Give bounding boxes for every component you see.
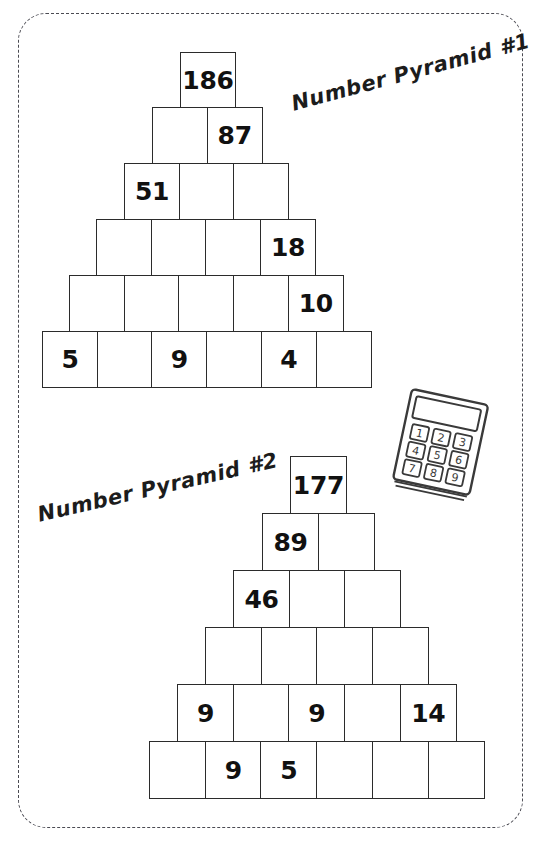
calculator-key-1: 1 [415, 426, 425, 440]
calculator-key-5: 5 [432, 449, 442, 463]
calculator-key-7: 7 [407, 462, 417, 476]
pyramid-2-cell-r6c6[interactable] [428, 741, 485, 799]
pyramid-2-row-5: 9 9 14 [177, 684, 457, 742]
pyramid-2-cell-r6c2[interactable]: 9 [205, 741, 262, 799]
pyramid-2-cell-r6c4[interactable] [316, 741, 373, 799]
pyramid-1-cell-r3c2[interactable] [179, 163, 235, 220]
pyramid-1-cell-r6c2[interactable] [97, 331, 153, 388]
pyramid-2-cell-r3c3[interactable] [344, 570, 401, 628]
pyramid-2-cell-r5c5[interactable]: 14 [400, 684, 457, 742]
pyramid-2-cell-r2c1[interactable]: 89 [262, 513, 319, 571]
pyramid-1-cell-r4c1[interactable] [96, 219, 152, 276]
pyramid-1-cell-r6c1[interactable]: 5 [42, 331, 98, 388]
pyramid-1-cell-r3c1[interactable]: 51 [124, 163, 180, 220]
pyramid-2-cell-r6c1[interactable] [149, 741, 206, 799]
pyramid-1-cell-r5c1[interactable] [69, 275, 125, 332]
pyramid-2-cell-r5c4[interactable] [344, 684, 401, 742]
pyramid-1-cell-r5c4[interactable] [233, 275, 289, 332]
pyramid-1-row-6: 5 9 4 [42, 331, 372, 388]
pyramid-2-row-2: 89 [262, 513, 375, 571]
pyramid-2-cell-r5c2[interactable] [233, 684, 290, 742]
calculator-key-2: 2 [436, 431, 446, 445]
pyramid-2-row-1: 177 [290, 456, 347, 514]
pyramid-1-cell-r6c5[interactable]: 4 [261, 331, 317, 388]
pyramid-1-cell-r4c3[interactable] [205, 219, 261, 276]
calculator-key-3: 3 [458, 436, 468, 450]
pyramid-2-cell-r2c2[interactable] [318, 513, 375, 571]
pyramid-1-cell-r6c6[interactable] [316, 331, 372, 388]
pyramid-2-cell-r6c5[interactable] [372, 741, 429, 799]
pyramid-2-row-6: 9 5 [149, 741, 485, 799]
pyramid-2-cell-r1c1[interactable]: 177 [290, 456, 347, 514]
pyramid-2-cell-r4c4[interactable] [372, 627, 429, 685]
pyramid-2-cell-r5c3[interactable]: 9 [288, 684, 345, 742]
pyramid-1-row-1: 186 [180, 52, 236, 109]
calculator-key-8: 8 [429, 466, 439, 480]
pyramid-1-cell-r5c3[interactable] [178, 275, 234, 332]
pyramid-2-cell-r4c1[interactable] [205, 627, 262, 685]
pyramid-1-row-4: 18 [96, 219, 316, 276]
pyramid-1-row-5: 10 [69, 275, 344, 332]
pyramid-2-cell-r6c3[interactable]: 5 [260, 741, 317, 799]
pyramid-1-cell-r2c1[interactable] [152, 107, 208, 164]
pyramid-2-row-4 [205, 627, 429, 685]
pyramid-1-cell-r3c3[interactable] [233, 163, 289, 220]
pyramid-2-row-3: 46 [233, 570, 401, 628]
pyramid-1-cell-r4c2[interactable] [151, 219, 207, 276]
pyramid-1-row-3: 51 [124, 163, 289, 220]
pyramid-1-row-2: 87 [152, 107, 263, 164]
pyramid-2-cell-r3c2[interactable] [289, 570, 346, 628]
calculator-key-4: 4 [411, 444, 421, 458]
pyramid-2-cell-r3c1[interactable]: 46 [233, 570, 290, 628]
pyramid-1-cell-r5c5[interactable]: 10 [288, 275, 344, 332]
calculator-key-6: 6 [454, 453, 464, 467]
pyramid-1-cell-r4c4[interactable]: 18 [260, 219, 316, 276]
pyramid-2-cell-r4c3[interactable] [316, 627, 373, 685]
pyramid-1-cell-r2c2[interactable]: 87 [207, 107, 263, 164]
pyramid-2-cell-r5c1[interactable]: 9 [177, 684, 234, 742]
pyramid-2-cell-r4c2[interactable] [261, 627, 318, 685]
pyramid-1-cell-r1c1[interactable]: 186 [180, 52, 236, 109]
pyramid-1-cell-r6c3[interactable]: 9 [151, 331, 207, 388]
calculator-key-9: 9 [450, 471, 460, 485]
pyramid-1-cell-r5c2[interactable] [124, 275, 180, 332]
pyramid-1-cell-r6c4[interactable] [206, 331, 262, 388]
